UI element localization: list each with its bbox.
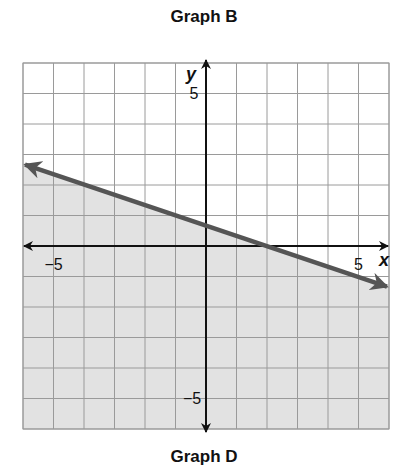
y-axis-label: y xyxy=(185,64,197,84)
graph-caption: Graph D xyxy=(0,447,408,467)
y-tick-label-5: 5 xyxy=(190,85,199,102)
x-tick-label-neg5: −5 xyxy=(44,256,62,273)
x-tick-label-5: 5 xyxy=(354,256,363,273)
inequality-graph: y x 5 −5 −5 5 xyxy=(0,0,408,476)
x-axis-label: x xyxy=(378,250,390,270)
y-tick-label-neg5: −5 xyxy=(183,390,201,407)
